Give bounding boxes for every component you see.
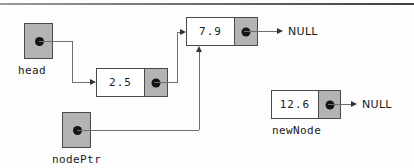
node-ptr-connector-segment-2: [199, 52, 200, 130]
node-7-9-null-connector: [244, 31, 278, 32]
head-label: head: [18, 64, 46, 77]
node-12-6-null-connector: [328, 104, 352, 105]
linked-list-diagram: head 2.5 7.9 NULL nodePtr 12.6: [0, 0, 414, 168]
node-2-5-connector-segment-2: [177, 32, 178, 82]
head-connector-segment-3: [72, 82, 91, 83]
node-12-6-null-arrowhead-icon: [351, 101, 357, 107]
top-border-rule: [0, 3, 414, 5]
node-7-9-data: 7.9: [187, 18, 234, 45]
node-ptr-connector-segment-1: [77, 130, 199, 131]
node-7-9-null-arrowhead-icon: [277, 28, 283, 34]
node-12-6-data: 12.6: [272, 91, 318, 118]
node-ptr-arrowhead-icon: [196, 46, 202, 52]
node-2-5-data: 2.5: [97, 69, 144, 96]
head-connector-segment-1: [39, 41, 73, 42]
node-2-5-connector-segment-1: [154, 82, 178, 83]
new-node-label: newNode: [272, 124, 321, 137]
node-7-9-null-label: NULL: [288, 25, 318, 38]
node-ptr-label: nodePtr: [52, 153, 101, 166]
node-12-6-null-label: NULL: [362, 98, 392, 111]
head-connector-segment-2: [72, 41, 73, 82]
